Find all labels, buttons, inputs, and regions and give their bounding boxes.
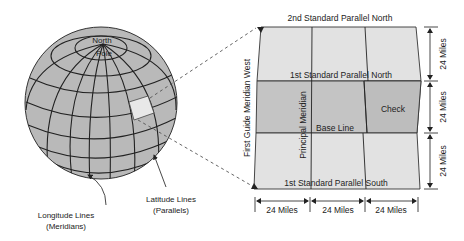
second-parallel-north-label: 2nd Standard Parallel North [288, 13, 393, 23]
horizontal-dimension-2: 24 Miles [322, 205, 354, 215]
horizontal-dimension-1: 24 Miles [266, 205, 298, 215]
check-label: Check [381, 104, 406, 114]
vertical-dimension-1: 24 Miles [438, 38, 448, 70]
horizontal-dimension-3: 24 Miles [375, 205, 407, 215]
latitude-label-2: (Parallels) [153, 206, 189, 215]
diagram-canvas: North Pole Latitude Lines (Parallels) Lo… [0, 0, 464, 241]
base-line-label: Base Line [316, 123, 354, 133]
north-pole-label-1: North [92, 36, 112, 45]
globe: North Pole [25, 27, 177, 185]
vertical-dimensions [424, 27, 438, 189]
north-pole-label-2: Pole [96, 49, 113, 58]
latitude-arrow [154, 155, 166, 187]
first-parallel-south-label: 1st Standard Parallel South [284, 178, 388, 188]
latitude-label-1: Latitude Lines [146, 195, 196, 204]
longitude-label-1: Longitude Lines [38, 211, 95, 220]
longitude-label-2: (Meridians) [46, 222, 86, 231]
longitude-arrow [88, 175, 106, 205]
first-parallel-north-label: 1st Standard Parallel North [290, 70, 392, 80]
vertical-dimension-3: 24 Miles [438, 145, 448, 177]
guide-meridian-label: First Guide Meridian West [242, 58, 252, 157]
township-grid: 2nd Standard Parallel North 1st Standard… [242, 13, 421, 189]
principal-meridian-label: Principal Meridian [298, 91, 308, 159]
vertical-dimension-2: 24 Miles [438, 91, 448, 123]
